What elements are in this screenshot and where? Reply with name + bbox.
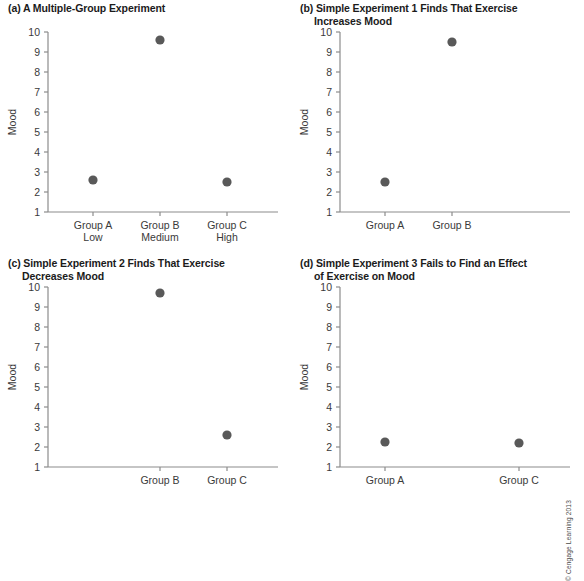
x-axis-category-label: Group A [74,219,113,231]
y-axis-tick-label: 6 [326,106,332,118]
data-point [155,288,164,297]
y-axis-tick-label: 6 [326,361,332,373]
x-axis-category-label: Group A [366,474,405,486]
y-axis-tick-label: 3 [326,421,332,433]
y-axis-tick-label: 3 [34,421,40,433]
panel-c-plot: 10987654321MoodGroup BGroup C [0,255,292,510]
y-axis-tick-label: 1 [326,461,332,473]
y-axis-tick-label: 5 [326,381,332,393]
y-axis-tick-label: 2 [34,186,40,198]
y-axis-tick-label: 2 [326,186,332,198]
y-axis-label: Mood [298,109,310,135]
y-axis-label: Mood [298,364,310,390]
y-axis-tick-label: 10 [28,26,40,38]
y-axis-tick-label: 9 [326,301,332,313]
y-axis-tick-label: 7 [34,341,40,353]
y-axis-tick-label: 8 [326,66,332,78]
data-point [222,177,231,186]
panel-d: (d) Simple Experiment 3 Fails to Find an… [292,255,584,510]
data-point [88,175,97,184]
data-point [380,177,389,186]
x-axis-category-sublabel: High [216,231,238,243]
y-axis-tick-label: 6 [34,106,40,118]
y-axis-tick-label: 7 [326,86,332,98]
y-axis-tick-label: 6 [34,361,40,373]
panel-a: (a) A Multiple-Group Experiment 10987654… [0,0,292,255]
y-axis-tick-label: 7 [326,341,332,353]
y-axis-tick-label: 4 [34,146,40,158]
y-axis-tick-label: 8 [34,66,40,78]
y-axis-tick-label: 10 [320,26,332,38]
y-axis-tick-label: 5 [326,126,332,138]
data-point [155,35,164,44]
y-axis-label: Mood [6,109,18,135]
panel-d-plot: 10987654321MoodGroup AGroup C [292,255,584,510]
data-point [514,438,523,447]
x-axis-category-label: Group B [140,474,179,486]
y-axis-tick-label: 8 [326,321,332,333]
y-axis-tick-label: 1 [34,461,40,473]
y-axis-tick-label: 1 [34,206,40,218]
x-axis-category-sublabel: Medium [141,231,179,243]
panel-c: (c) Simple Experiment 2 Finds That Exerc… [0,255,292,510]
y-axis-tick-label: 7 [34,86,40,98]
x-axis-category-label: Group B [140,219,179,231]
y-axis-tick-label: 9 [326,46,332,58]
y-axis-tick-label: 10 [28,281,40,293]
copyright-wrap: © Cengage Learning 2013 [570,400,582,500]
panel-b-plot: 10987654321MoodGroup AGroup B [292,0,584,255]
y-axis-tick-label: 2 [326,441,332,453]
y-axis-label: Mood [6,364,18,390]
y-axis-tick-label: 3 [326,166,332,178]
x-axis-category-label: Group C [499,474,539,486]
y-axis-tick-label: 10 [320,281,332,293]
data-point [447,37,456,46]
x-axis-category-sublabel: Low [83,231,103,243]
y-axis-tick-label: 1 [326,206,332,218]
y-axis-tick-label: 4 [34,401,40,413]
x-axis-category-label: Group B [432,219,471,231]
x-axis-category-label: Group C [207,474,247,486]
y-axis-tick-label: 5 [34,381,40,393]
y-axis-tick-label: 3 [34,166,40,178]
y-axis-tick-label: 9 [34,46,40,58]
copyright-notice: © Cengage Learning 2013 [565,500,572,581]
data-point [222,430,231,439]
panel-a-plot: 10987654321MoodGroup ALowGroup BMediumGr… [0,0,292,255]
x-axis-category-label: Group C [207,219,247,231]
y-axis-tick-label: 9 [34,301,40,313]
y-axis-tick-label: 4 [326,146,332,158]
y-axis-tick-label: 8 [34,321,40,333]
y-axis-tick-label: 2 [34,441,40,453]
x-axis-category-label: Group A [366,219,405,231]
data-point [380,437,389,446]
y-axis-tick-label: 5 [34,126,40,138]
y-axis-tick-label: 4 [326,401,332,413]
panel-b: (b) Simple Experiment 1 Finds That Exerc… [292,0,584,255]
